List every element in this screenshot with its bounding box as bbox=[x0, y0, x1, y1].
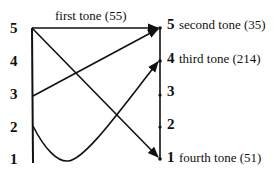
third-tone-curve bbox=[33, 62, 158, 161]
left-scale-2: 2 bbox=[10, 120, 18, 134]
right-dot-2 bbox=[158, 125, 161, 128]
left-scale-3: 3 bbox=[10, 87, 18, 101]
left-scale-4: 4 bbox=[10, 54, 18, 68]
fourth-tone-label: fourth tone (51) bbox=[179, 151, 261, 165]
third-tone-label: third tone (214) bbox=[179, 52, 261, 66]
left-scale-1: 1 bbox=[10, 152, 18, 166]
right-scale-1: 1 bbox=[167, 150, 175, 164]
first-tone-label: first tone (55) bbox=[55, 9, 126, 23]
left-scale-5: 5 bbox=[10, 21, 18, 35]
right-dot-3 bbox=[158, 93, 161, 96]
fourth-tone-line bbox=[32, 28, 158, 157]
right-scale-4: 4 bbox=[167, 51, 175, 65]
right-scale-5: 5 bbox=[167, 17, 175, 31]
right-scale-2: 2 bbox=[167, 117, 175, 131]
right-dot-1 bbox=[158, 157, 162, 161]
right-dot-4 bbox=[158, 59, 162, 63]
right-scale-3: 3 bbox=[167, 84, 175, 98]
second-tone-label: second tone (35) bbox=[179, 18, 266, 32]
right-dot-5 bbox=[158, 26, 162, 30]
